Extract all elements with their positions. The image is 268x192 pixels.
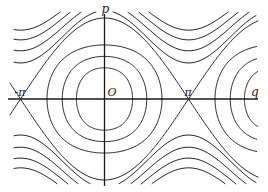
phase-curves <box>10 12 258 184</box>
rotating-orbit-lower-2 <box>14 147 78 183</box>
rotating-orbit-upper-4 <box>14 12 60 30</box>
origin-label: O <box>108 86 117 99</box>
rotating-orbit-upper-3 <box>139 12 238 39</box>
rotating-orbit-upper-2 <box>14 12 81 50</box>
p-axis-label: p <box>102 2 110 16</box>
rotating-orbit-lower-4 <box>152 168 225 184</box>
phase-portrait-svg: p q O -π π <box>0 0 268 192</box>
neg-pi-tick-label: -π <box>15 86 27 99</box>
rotating-orbit-lower-3 <box>14 158 68 184</box>
pi-tick-label: π <box>184 86 193 99</box>
q-axis-label: q <box>251 85 259 99</box>
rotating-orbit-lower-1 <box>14 135 90 183</box>
rotating-orbit-upper-4 <box>149 12 228 30</box>
rotating-orbit-lower-3 <box>141 158 236 184</box>
phase-portrait-diagram: p q O -π π <box>0 0 268 192</box>
rotating-orbit-upper-3 <box>14 12 70 39</box>
rotating-orbit-upper-1 <box>14 12 96 63</box>
